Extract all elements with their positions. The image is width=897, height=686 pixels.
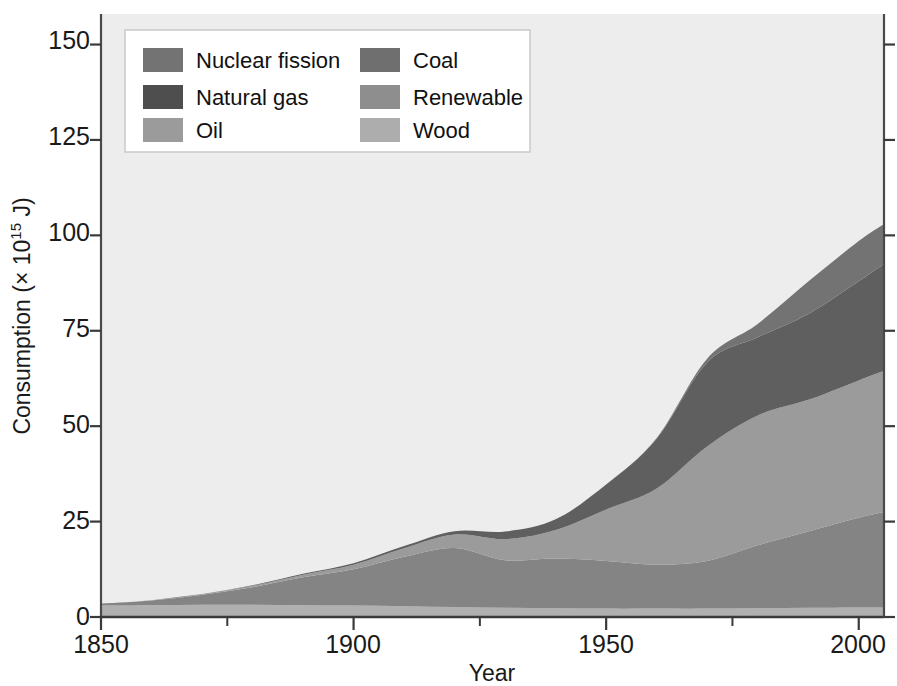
x-tick-label-2000: 2000 xyxy=(830,630,886,658)
x-tick-label-1900: 1900 xyxy=(325,630,381,658)
legend-label-wood: Wood xyxy=(413,118,470,143)
svg-text:Consumption (× 1015 J): Consumption (× 1015 J) xyxy=(7,197,35,434)
y-tick-label-50: 50 xyxy=(62,410,90,438)
y-tick-label-25: 25 xyxy=(62,506,90,534)
y-axis-title-exponent: 15 xyxy=(7,223,24,240)
legend-label-renewable: Renewable xyxy=(413,85,523,110)
y-tick-label-0: 0 xyxy=(76,602,90,630)
legend-swatch-oil xyxy=(143,118,183,142)
legend-label-nuclear-fission: Nuclear fission xyxy=(196,48,340,73)
y-axis-ticks-group xyxy=(90,45,101,617)
legend-label-natural-gas: Natural gas xyxy=(196,85,309,110)
energy-consumption-area-chart: 0 25 50 75 100 125 150 1850 1900 1950 20… xyxy=(0,0,897,686)
y-axis-title-prefix: Consumption (× 10 xyxy=(9,240,35,435)
y-axis-right-ticks-group xyxy=(884,45,895,617)
y-tick-label-125: 125 xyxy=(48,122,90,150)
x-axis-ticks-group xyxy=(101,617,859,630)
legend: Nuclear fission Natural gas Oil Coal Ren… xyxy=(125,30,530,152)
legend-swatch-renewable xyxy=(360,85,400,109)
x-tick-label-1950: 1950 xyxy=(578,630,634,658)
x-tick-label-1850: 1850 xyxy=(73,630,129,658)
legend-label-coal: Coal xyxy=(413,48,458,73)
y-tick-label-150: 150 xyxy=(48,26,90,54)
y-tick-label-100: 100 xyxy=(48,218,90,246)
legend-label-oil: Oil xyxy=(196,118,223,143)
x-axis-title: Year xyxy=(469,660,516,686)
legend-swatch-wood xyxy=(360,118,400,142)
legend-swatch-natural-gas xyxy=(143,85,183,109)
y-tick-label-75: 75 xyxy=(62,314,90,342)
legend-swatch-coal xyxy=(360,48,400,72)
y-axis-title: Consumption (× 1015 J) xyxy=(7,197,35,434)
y-axis-title-suffix: J) xyxy=(9,197,35,223)
legend-swatch-nuclear-fission xyxy=(143,48,183,72)
chart-svg: 0 25 50 75 100 125 150 1850 1900 1950 20… xyxy=(0,0,897,686)
